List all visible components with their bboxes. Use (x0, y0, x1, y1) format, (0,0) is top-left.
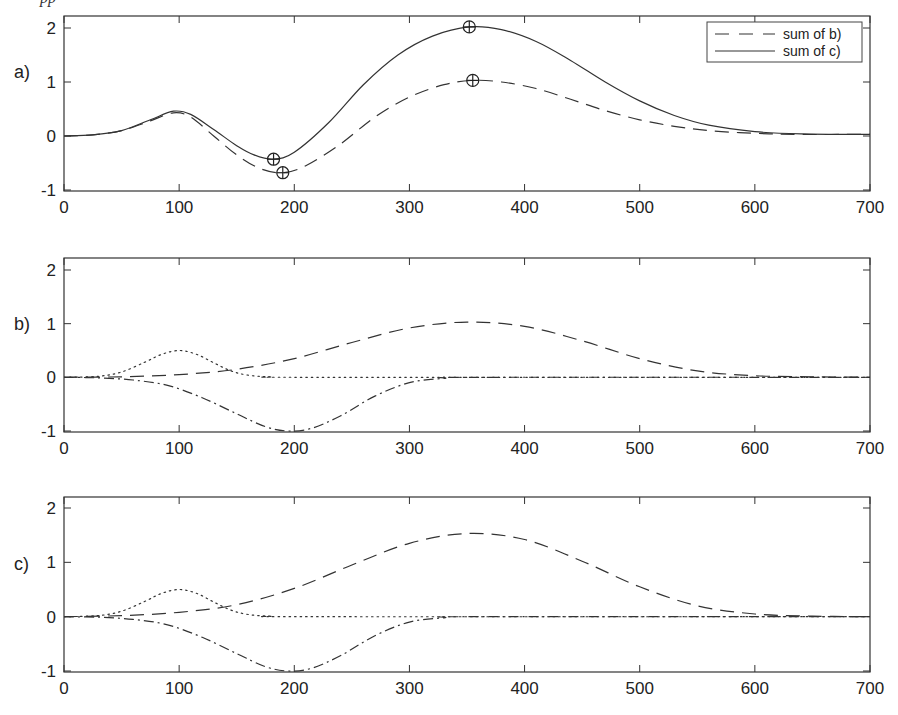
series-component-2 (64, 533, 870, 616)
panel-a: 0100200300400500600700-1012a)sum of b)su… (14, 16, 884, 217)
x-tick-label: 500 (626, 198, 654, 217)
x-tick-label: 200 (280, 198, 308, 217)
x-tick-label: 100 (165, 439, 193, 458)
x-tick-label: 0 (59, 198, 68, 217)
x-tick-label: 500 (626, 439, 654, 458)
x-tick-label: 0 (59, 679, 68, 698)
axes-frame (64, 258, 870, 432)
y-tick-label: 2 (47, 499, 56, 518)
y-tick-label: -1 (41, 422, 56, 441)
x-tick-label: 500 (626, 679, 654, 698)
figure-canvas: 0100200300400500600700-1012a)sum of b)su… (0, 0, 898, 715)
x-tick-label: 200 (280, 679, 308, 698)
y-tick-label: 2 (47, 19, 56, 38)
x-tick-label: 300 (395, 198, 423, 217)
series-component-2 (64, 322, 870, 377)
panel-b: 0100200300400500600700-1012b) (14, 258, 884, 458)
series-component-1 (64, 351, 870, 378)
circle-plus-marker (277, 167, 289, 179)
circle-plus-marker (268, 153, 280, 165)
x-tick-label: 700 (856, 198, 884, 217)
y-tick-label: 0 (47, 127, 56, 146)
legend: sum of b)sum of c) (707, 22, 862, 62)
x-tick-label: 300 (395, 679, 423, 698)
y-tick-label: 1 (47, 73, 56, 92)
x-tick-label: 300 (395, 439, 423, 458)
axes-frame (64, 497, 870, 672)
x-tick-label: 700 (856, 439, 884, 458)
y-tick-label: -1 (41, 181, 56, 200)
y-tick-label: 2 (47, 261, 56, 280)
legend-label: sum of c) (783, 43, 841, 59)
series-sum-of-b (64, 80, 870, 173)
x-tick-label: 600 (741, 679, 769, 698)
x-tick-label: 200 (280, 439, 308, 458)
panel-label: a) (14, 62, 30, 82)
x-tick-label: 400 (510, 439, 538, 458)
x-tick-label: 600 (741, 439, 769, 458)
series-component-3 (64, 617, 870, 671)
x-tick-label: 400 (510, 198, 538, 217)
panel-label: b) (14, 314, 30, 334)
x-tick-label: 0 (59, 439, 68, 458)
y-tick-label: 1 (47, 553, 56, 572)
panel-label: c) (14, 554, 29, 574)
series-component-3 (64, 377, 870, 431)
circle-plus-marker (467, 74, 479, 86)
x-tick-label: 700 (856, 679, 884, 698)
series-component-1 (64, 590, 870, 617)
y-tick-label: -1 (41, 662, 56, 681)
x-tick-label: 100 (165, 679, 193, 698)
circle-plus-marker (463, 21, 475, 33)
x-tick-label: 400 (510, 679, 538, 698)
legend-label: sum of b) (783, 26, 841, 42)
y-tick-label: 0 (47, 608, 56, 627)
y-tick-label: 0 (47, 368, 56, 387)
y-tick-label: 1 (47, 315, 56, 334)
x-tick-label: 600 (741, 198, 769, 217)
panel-c: 0100200300400500600700-1012c) (14, 497, 884, 698)
x-tick-label: 100 (165, 198, 193, 217)
